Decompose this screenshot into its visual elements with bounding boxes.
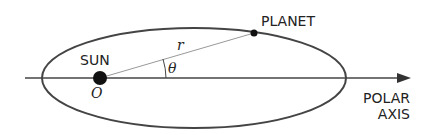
radius-label: r xyxy=(177,37,185,53)
angle-arc xyxy=(163,59,166,78)
polar-axis-arrowhead-icon xyxy=(397,73,411,83)
planet-dot xyxy=(251,30,258,37)
sun-label: SUN xyxy=(80,52,110,68)
orbit-diagram: SUN O r θ PLANET POLAR AXIS xyxy=(0,0,422,135)
sun-dot xyxy=(93,71,107,85)
planet-label: PLANET xyxy=(261,13,315,29)
diagram-canvas: SUN O r θ PLANET POLAR AXIS xyxy=(0,0,422,135)
polar-axis-label-line2: AXIS xyxy=(378,106,410,122)
polar-axis-label-line1: POLAR xyxy=(363,90,410,106)
angle-label: θ xyxy=(168,60,177,76)
origin-label: O xyxy=(91,85,103,101)
